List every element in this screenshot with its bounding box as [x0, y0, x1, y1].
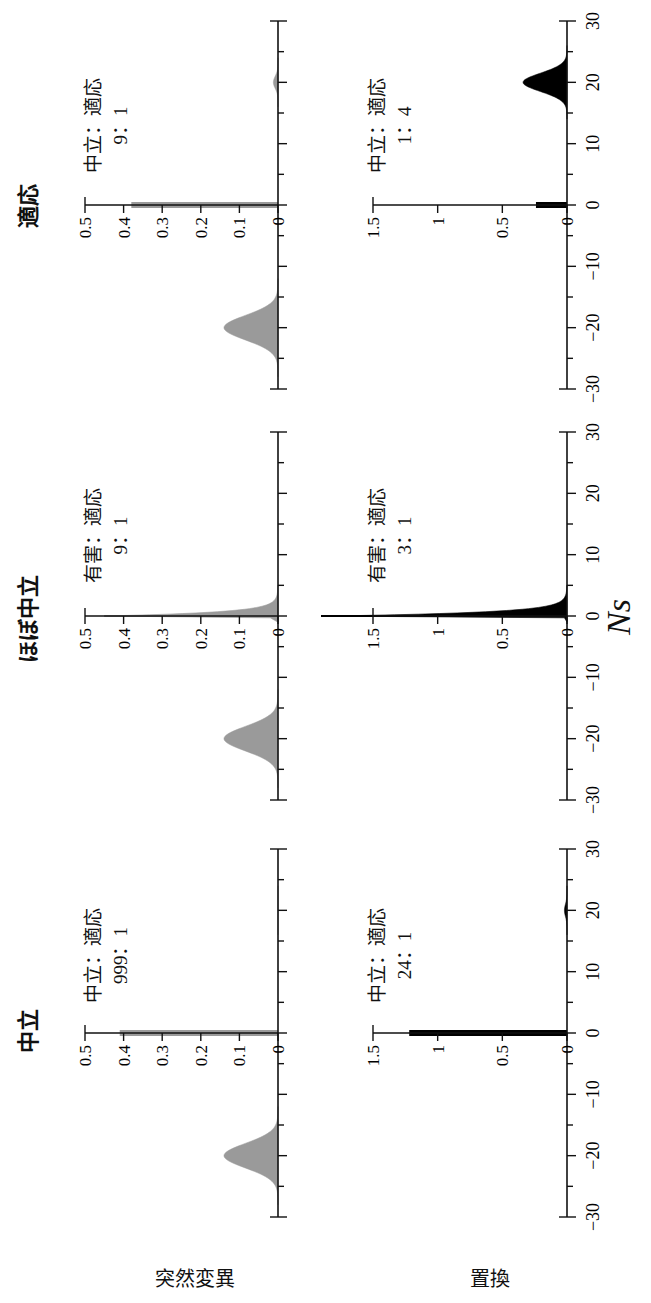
annotation-line-2: 1：4	[389, 78, 416, 173]
x-tick-label: 20	[583, 484, 603, 502]
y-tick-label: 1.5	[364, 217, 383, 238]
y-tick-label: 1	[429, 217, 448, 226]
x-tick-label: 0	[583, 1029, 603, 1038]
y-tick-label: 0.3	[153, 1045, 172, 1066]
x-tick-label: −20	[583, 314, 603, 342]
row-label-mutation: 突然変異	[155, 1263, 235, 1292]
y-tick-label: 0.4	[115, 628, 134, 650]
x-tick-label: −10	[583, 1080, 603, 1108]
annotation-nearly-substitution: 有害：適応 3：1	[362, 488, 416, 583]
y-tick-label: 0.1	[230, 217, 249, 238]
y-tick-label: 0.5	[493, 1045, 512, 1066]
x-tick-label: 20	[583, 901, 603, 919]
x-tick-label: 30	[583, 840, 603, 858]
annotation-line-2: 9：1	[105, 78, 132, 173]
y-tick-label: 0	[558, 217, 577, 226]
annotation-line-1: 有害：適応	[362, 488, 389, 583]
y-tick-label: 0.3	[153, 628, 172, 649]
distribution-peak	[224, 690, 278, 788]
x-axis-label-ns: Ns	[600, 599, 638, 635]
annotation-neutral-substitution: 中立：適応 24：1	[362, 908, 416, 1003]
y-tick-label: 1	[429, 1045, 448, 1054]
annotation-line-1: 有害：適応	[78, 488, 105, 583]
y-tick-label: 0.4	[115, 1045, 134, 1067]
x-tick-label: 10	[583, 546, 603, 564]
y-tick-label: 0.4	[115, 217, 134, 239]
x-tick-label: −10	[583, 663, 603, 691]
column-title-neutral: 中立	[10, 1009, 42, 1053]
x-tick-label: −30	[583, 1203, 603, 1231]
x-tick-label: 10	[583, 963, 603, 981]
y-tick-label: 0	[269, 628, 288, 637]
y-tick-label: 0	[269, 1045, 288, 1054]
distribution-peak	[224, 1107, 278, 1205]
x-tick-label: 20	[583, 73, 603, 91]
y-tick-label: 0.2	[192, 1045, 211, 1066]
x-tick-label: −20	[583, 1142, 603, 1170]
distribution-peak	[224, 279, 278, 377]
x-tick-label: −30	[583, 375, 603, 403]
x-tick-label: 10	[583, 135, 603, 153]
annotation-line-2: 999：1	[105, 908, 132, 1003]
x-tick-label: −10	[583, 252, 603, 280]
annotation-neutral-mutation: 中立：適応 999：1	[78, 908, 132, 1003]
y-tick-label: 1.5	[364, 628, 383, 649]
y-tick-label: 0.5	[76, 1045, 95, 1066]
x-tick-label: −30	[583, 786, 603, 814]
figure-canvas: 00.10.20.30.40.5−30−20−10010203000.511.5…	[0, 0, 651, 1303]
y-tick-label: 0.2	[192, 628, 211, 649]
annotation-line-2: 3：1	[389, 488, 416, 583]
y-tick-label: 0.1	[230, 1045, 249, 1066]
column-title-adaptive: 適応	[10, 184, 42, 228]
annotation-line-1: 中立：適応	[362, 78, 389, 173]
y-tick-label: 1	[429, 628, 448, 637]
figure-stage: 00.10.20.30.40.5−30−20−10010203000.511.5…	[0, 0, 651, 1303]
annotation-line-2: 24：1	[389, 908, 416, 1003]
y-tick-label: 0.3	[153, 217, 172, 238]
y-tick-label: 0.2	[192, 217, 211, 238]
y-tick-label: 0	[558, 628, 577, 637]
y-tick-label: 0	[558, 1045, 577, 1054]
annotation-adaptive-mutation: 中立：適応 9：1	[78, 78, 132, 173]
y-tick-label: 0.5	[493, 217, 512, 238]
column-title-nearly-neutral: ほぼ中立	[10, 575, 42, 663]
y-tick-label: 1.5	[364, 1045, 383, 1066]
x-tick-label: 0	[583, 201, 603, 210]
y-tick-label: 0.5	[76, 217, 95, 238]
y-tick-label: 0.5	[493, 628, 512, 649]
annotation-nearly-mutation: 有害：適応 9：1	[78, 488, 132, 583]
y-tick-label: 0.1	[230, 628, 249, 649]
row-label-substitution: 置換	[470, 1263, 510, 1292]
y-tick-label: 0.5	[76, 628, 95, 649]
annotation-line-1: 中立：適応	[78, 908, 105, 1003]
annotation-line-1: 中立：適応	[362, 908, 389, 1003]
annotation-line-1: 中立：適応	[78, 78, 105, 173]
x-tick-label: 30	[583, 12, 603, 30]
x-tick-label: −20	[583, 725, 603, 753]
distribution-peak	[523, 46, 567, 120]
annotation-adaptive-substitution: 中立：適応 1：4	[362, 78, 416, 173]
y-tick-label: 0	[269, 217, 288, 226]
annotation-line-2: 9：1	[105, 488, 132, 583]
x-tick-label: 30	[583, 423, 603, 441]
